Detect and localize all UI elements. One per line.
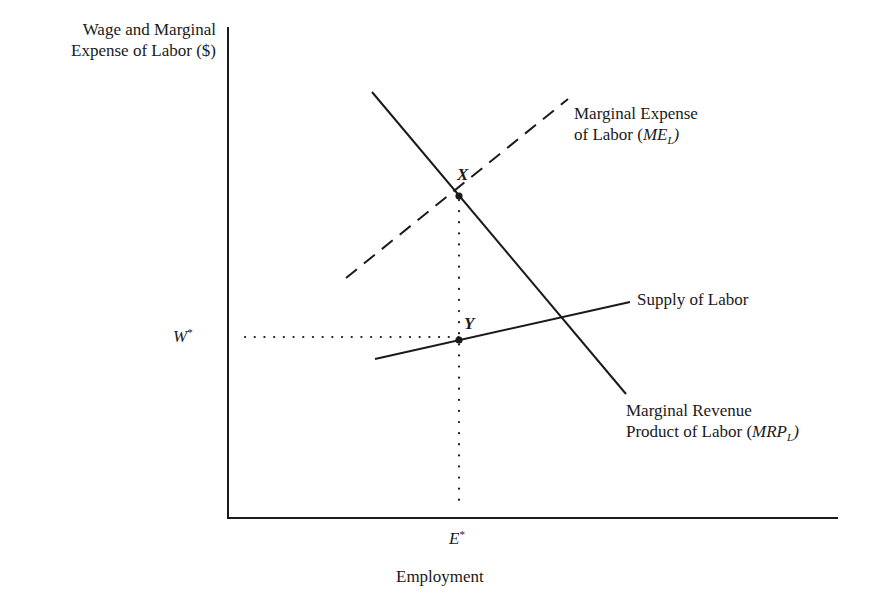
supply-curve-label: Supply of Labor <box>637 289 748 310</box>
mrp-label-prefix: Product of Labor ( <box>626 422 752 441</box>
point-x-label: X <box>457 164 468 185</box>
e-star-label: E* <box>449 528 465 549</box>
w-star-label: W* <box>173 326 193 347</box>
y-axis-label-line1: Wage and Marginal <box>71 19 216 40</box>
e-star-base: E <box>449 529 459 548</box>
point-x-marker <box>455 192 462 199</box>
me-label-close: ) <box>674 125 680 144</box>
mrp-label-line2: Product of Labor (MRPL) <box>626 421 799 442</box>
y-axis-label-line2: Expense of Labor ($) <box>71 40 216 61</box>
w-star-sup: * <box>187 326 193 338</box>
y-axis-label: Wage and Marginal Expense of Labor ($) <box>71 19 216 61</box>
me-label-line2: of Labor (MEL) <box>574 124 698 145</box>
supply-curve <box>375 302 630 359</box>
me-label-prefix: of Labor ( <box>574 125 643 144</box>
mrp-label-symbol: MRP <box>752 422 787 441</box>
diagram-canvas <box>0 0 890 613</box>
me-label-line1: Marginal Expense <box>574 103 698 124</box>
me-curve-label: Marginal Expense of Labor (MEL) <box>574 103 698 145</box>
me-label-symbol: ME <box>643 125 668 144</box>
point-y-label: Y <box>464 313 474 334</box>
point-y-marker <box>455 336 462 343</box>
me-curve <box>346 99 568 278</box>
e-star-sup: * <box>459 528 465 540</box>
mrp-label-line1: Marginal Revenue <box>626 400 799 421</box>
x-axis-label: Employment <box>396 566 484 587</box>
w-star-base: W <box>173 327 187 346</box>
mrp-curve-label: Marginal Revenue Product of Labor (MRPL) <box>626 400 799 442</box>
mrp-label-close: ) <box>793 422 799 441</box>
